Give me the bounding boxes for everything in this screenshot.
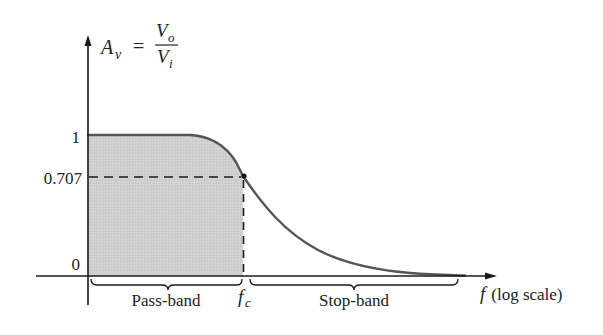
svg-text:o: o (168, 30, 175, 45)
passband-label: Pass-band (132, 291, 201, 310)
svg-text:=: = (133, 35, 144, 57)
y-axis-arrow-icon (85, 35, 92, 46)
stopband-brace (250, 279, 458, 290)
cutoff-point-marker (241, 173, 246, 178)
svg-text:(log scale): (log scale) (487, 285, 563, 304)
passband-fill (88, 135, 243, 276)
svg-text:v: v (115, 47, 122, 62)
passband-brace (91, 279, 242, 290)
y-axis-label: A v = V o V i (99, 20, 178, 71)
ytick-label-0: 0 (72, 255, 81, 274)
stopband-label: Stop-band (319, 291, 389, 310)
ytick-label-0707: 0.707 (44, 169, 83, 188)
filter-response-chart: 1 0.707 0 A v = V o V i Pass-band f c St… (0, 0, 603, 335)
ytick-label-1: 1 (72, 128, 81, 147)
x-axis-label: f (log scale) (480, 283, 563, 304)
x-axis-arrow-icon (485, 273, 497, 280)
cutoff-frequency-label: f c (238, 286, 251, 310)
svg-text:A: A (99, 36, 114, 58)
svg-text:c: c (245, 295, 251, 310)
svg-text:i: i (169, 56, 173, 71)
